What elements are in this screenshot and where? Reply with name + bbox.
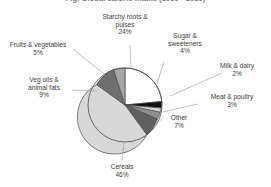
slice-value-meat-poultry: 3%	[197, 101, 267, 109]
slice-value-starchy-roots-pulses: 24%	[85, 28, 165, 36]
slice-label-line1: Sugar &	[173, 32, 197, 39]
slice-value-fruits-vegetables: 5%	[2, 49, 74, 57]
slice-label-line1: Veg oils &	[29, 76, 58, 83]
slice-value-sugar-sweeteners: 4%	[155, 47, 215, 55]
slice-label-line2: pulses	[115, 21, 134, 28]
slice-label-milk-dairy: Milk & dairy 2%	[206, 62, 268, 77]
slice-label-line1: Milk & dairy	[220, 62, 254, 69]
leader-line-meat-poultry	[163, 104, 198, 112]
slice-value-milk-dairy: 2%	[206, 70, 268, 78]
leader-line-sugar-sweeteners	[157, 62, 164, 84]
slice-label-meat-poultry: Meat & poultry 3%	[197, 93, 267, 108]
slice-label-line1: Fruits & vegetables	[10, 41, 66, 48]
slice-label-sugar-sweeteners: Sugar & sweeteners 4%	[155, 32, 215, 55]
slice-label-line2: sweeteners	[168, 40, 202, 47]
slice-label-fruits-vegetables: Fruits & vegetables 5%	[2, 41, 74, 56]
slice-value-other: 7%	[162, 122, 196, 130]
pie-chart-figure: Fig. Global calorie intake (1960 - 2010)	[0, 0, 271, 187]
pie-slice-starchy-roots-pulses	[125, 68, 162, 105]
slice-label-line1: Meat & poultry	[211, 93, 254, 100]
slice-label-starchy-roots-pulses: Starchy roots & pulses 24%	[85, 13, 165, 36]
slice-label-line1: Cereals	[111, 163, 134, 170]
leader-line-fruits-vegetables	[73, 49, 104, 74]
slice-label-line1: Other	[171, 114, 188, 121]
slice-label-veg-oils-animal-fats: Veg oils & animal fats 9%	[16, 76, 72, 99]
slice-label-cereals: Cereals 46%	[93, 163, 151, 178]
leader-line-starchy-roots-pulses	[130, 45, 131, 68]
slice-label-line2: animal fats	[28, 84, 60, 91]
slice-label-line1: Starchy roots &	[102, 13, 147, 20]
slice-value-veg-oils-animal-fats: 9%	[16, 91, 72, 99]
slice-value-cereals: 46%	[93, 171, 151, 179]
slice-label-other: Other 7%	[162, 114, 196, 129]
